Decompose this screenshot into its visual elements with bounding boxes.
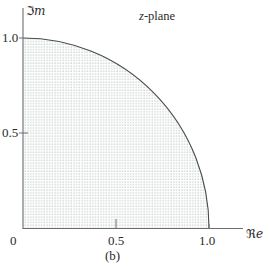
x-tick-label-0: 0 xyxy=(10,234,17,247)
fraktur-r-icon: ℜ xyxy=(246,227,256,241)
fraktur-i-icon: ℑ xyxy=(26,4,34,18)
plot-title-suffix: -plane xyxy=(144,9,175,23)
figure-z-plane-quarter-disk: ℑm ℜe z-plane 1.0 0.5 0 0.5 1.0 (b) xyxy=(0,0,271,266)
plot-canvas xyxy=(0,0,271,266)
x-axis-label-var: e xyxy=(256,227,263,241)
plot-title: z-plane xyxy=(139,10,175,23)
shaded-region-quarter-disk xyxy=(23,38,209,228)
x-axis-label: ℜe xyxy=(246,228,263,240)
y-tick-label-0.5: 0.5 xyxy=(2,126,18,139)
x-tick-label-1.0: 1.0 xyxy=(199,234,215,247)
y-axis-label-var: m xyxy=(34,4,45,18)
y-axis-label: ℑm xyxy=(26,5,45,17)
x-tick-label-0.5: 0.5 xyxy=(108,234,124,247)
figure-caption: (b) xyxy=(105,249,120,262)
y-tick-label-1.0: 1.0 xyxy=(2,31,18,44)
